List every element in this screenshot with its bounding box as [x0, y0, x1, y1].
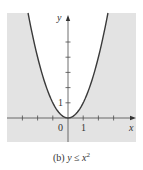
y-tick-label-1: 1 — [58, 97, 63, 108]
caption-prefix: (b) — [53, 152, 65, 163]
caption-lhs: y — [67, 152, 71, 163]
y-axis-label: y — [56, 12, 62, 23]
origin-label: 0 — [58, 122, 63, 133]
caption-exponent: 2 — [87, 151, 91, 159]
x-axis-label: x — [128, 122, 134, 133]
figure-caption: (b) y ≤ x2 — [0, 151, 143, 163]
caption-op: ≤ — [74, 152, 80, 163]
inequality-graph: y x 0 1 1 — [0, 0, 143, 170]
x-tick-label-1: 1 — [81, 122, 86, 133]
